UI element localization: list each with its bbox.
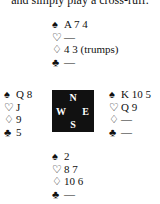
north-diamonds-row: ♢4 3 (trumps) — [52, 43, 118, 56]
south-spades-row: ♠2 — [52, 150, 83, 163]
west-spades-row: ♠Q 8 — [4, 88, 32, 101]
compass-west: W — [56, 106, 66, 117]
west-hearts: J — [16, 101, 20, 114]
west-clubs-row: ♣5 — [4, 126, 32, 139]
club-icon: ♣ — [4, 126, 14, 139]
north-spades-row: ♠A 7 4 — [52, 18, 118, 31]
east-spades: K 10 5 — [121, 88, 151, 101]
west-hearts-row: ♡J — [4, 101, 32, 114]
south-diamonds: 10 6 — [64, 175, 83, 188]
west-diamonds: 9 — [16, 113, 22, 126]
north-clubs: — — [64, 56, 75, 69]
east-spades-row: ♠K 10 5 — [109, 88, 151, 101]
south-clubs: — — [64, 188, 75, 201]
heart-icon: ♡ — [52, 163, 62, 176]
spade-icon: ♠ — [52, 150, 62, 163]
spade-icon: ♠ — [109, 88, 119, 101]
south-hearts: 8 7 — [64, 163, 78, 176]
compass-east: E — [82, 106, 89, 117]
north-spades: A 7 4 — [64, 18, 88, 31]
west-hand: ♠Q 8 ♡J ♢9 ♣5 — [4, 88, 32, 138]
west-spades: Q 8 — [16, 88, 32, 101]
spade-icon: ♠ — [52, 18, 62, 31]
west-clubs: 5 — [16, 126, 22, 139]
compass-box: N W E S — [52, 90, 94, 132]
south-spades: 2 — [64, 150, 70, 163]
heart-icon: ♡ — [4, 101, 14, 114]
diamond-icon: ♢ — [109, 113, 119, 126]
diamond-icon: ♢ — [52, 43, 62, 56]
club-icon: ♣ — [52, 188, 62, 201]
south-hearts-row: ♡8 7 — [52, 163, 83, 176]
heart-icon: ♡ — [52, 31, 62, 44]
north-diamonds: 4 3 (trumps) — [64, 43, 118, 56]
diamond-icon: ♢ — [4, 113, 14, 126]
east-diamonds-row: ♢— — [109, 113, 151, 126]
east-clubs: — — [121, 126, 132, 139]
club-icon: ♣ — [109, 126, 119, 139]
south-diamonds-row: ♢10 6 — [52, 175, 83, 188]
east-hand: ♠K 10 5 ♡Q 9 ♢— ♣— — [109, 88, 151, 138]
west-diamonds-row: ♢9 — [4, 113, 32, 126]
north-hearts-row: ♡— — [52, 31, 118, 44]
spade-icon: ♠ — [4, 88, 14, 101]
diamond-icon: ♢ — [52, 175, 62, 188]
east-hearts-row: ♡Q 9 — [109, 101, 151, 114]
north-hand: ♠A 7 4 ♡— ♢4 3 (trumps) ♣— — [52, 18, 118, 68]
club-icon: ♣ — [52, 56, 62, 69]
heart-icon: ♡ — [109, 101, 119, 114]
east-diamonds: — — [121, 113, 132, 126]
south-clubs-row: ♣— — [52, 188, 83, 201]
east-hearts: Q 9 — [121, 101, 137, 114]
east-clubs-row: ♣— — [109, 126, 151, 139]
compass-north: N — [69, 92, 76, 103]
caption-text: and simply play a cross-ruff. — [0, 0, 160, 7]
north-hearts: — — [64, 31, 75, 44]
south-hand: ♠2 ♡8 7 ♢10 6 ♣— — [52, 150, 83, 200]
north-clubs-row: ♣— — [52, 56, 118, 69]
compass-south: S — [70, 119, 76, 130]
